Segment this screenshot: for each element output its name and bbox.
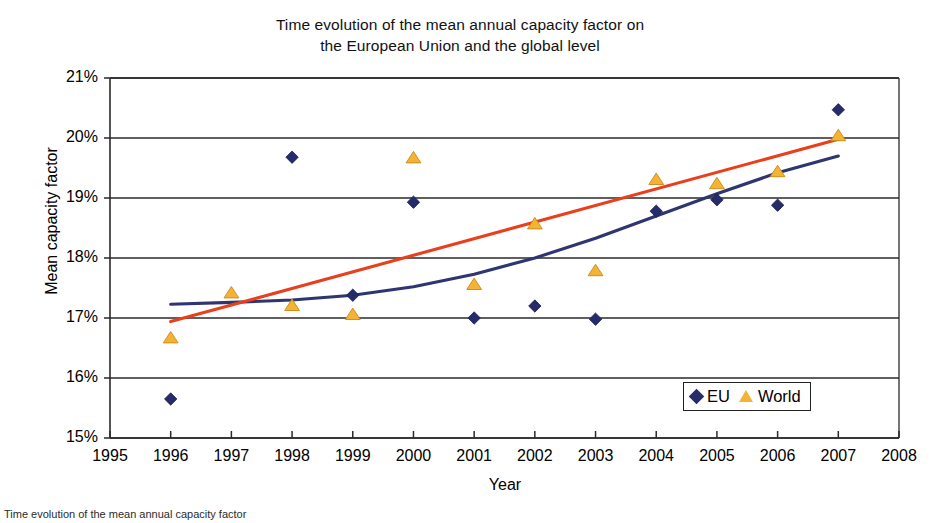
trendline-world (171, 139, 839, 321)
data-point-eu-2001 (468, 312, 480, 324)
data-point-eu-2002 (529, 300, 541, 312)
data-point-eu-1996 (164, 393, 176, 405)
legend-entry-world: World (739, 386, 801, 406)
data-point-eu-2003 (589, 313, 601, 325)
data-point-eu-2006 (771, 199, 783, 211)
plot-area (0, 0, 929, 523)
data-point-eu-1998 (286, 151, 298, 163)
data-point-world-1999 (345, 308, 360, 319)
data-point-world-1996 (163, 332, 178, 343)
data-point-world-1997 (224, 287, 239, 298)
legend-label-world: World (758, 386, 801, 406)
data-point-world-2000 (406, 152, 421, 163)
legend-entry-eu: EU (691, 386, 730, 406)
data-point-eu-1999 (347, 289, 359, 301)
figure-caption: Time evolution of the mean annual capaci… (4, 508, 246, 520)
data-point-world-2001 (467, 278, 482, 289)
chart-legend: EU World (683, 382, 811, 411)
data-point-eu-2007 (832, 104, 844, 116)
legend-label-eu: EU (707, 386, 730, 406)
data-point-world-2004 (649, 173, 664, 184)
triangle-marker-icon (739, 390, 753, 402)
capacity-factor-chart: Time evolution of the mean annual capaci… (0, 0, 929, 523)
data-point-world-2005 (710, 177, 725, 188)
data-point-world-2007 (831, 129, 846, 140)
diamond-marker-icon (689, 388, 705, 404)
data-point-world-2003 (588, 264, 603, 275)
